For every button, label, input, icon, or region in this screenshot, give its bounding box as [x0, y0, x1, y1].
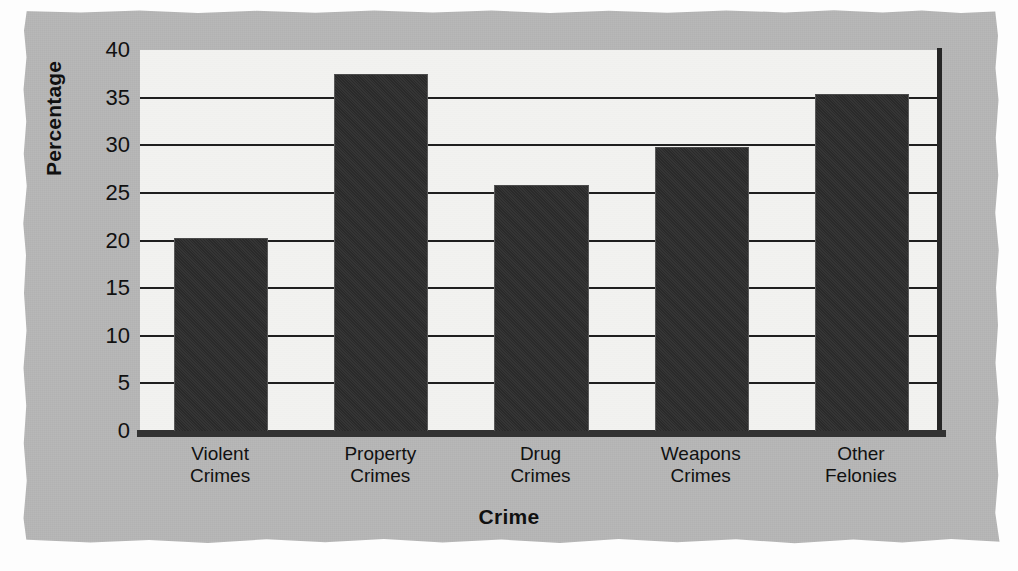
- x-tick-label: PropertyCrimes: [300, 443, 460, 488]
- bar: [174, 238, 268, 431]
- x-tick-label-line: Drug: [460, 443, 620, 465]
- y-axis-right-spine: [937, 48, 942, 433]
- x-tick-label-line: Felonies: [781, 465, 941, 487]
- x-tick-label: ViolentCrimes: [140, 443, 300, 488]
- scan-edge-right: [995, 9, 1000, 545]
- x-tick-label-line: Crimes: [621, 465, 781, 487]
- y-tick-label: 35: [106, 87, 130, 109]
- x-tick-label: OtherFelonies: [781, 443, 941, 488]
- x-tick-label-line: Violent: [140, 443, 300, 465]
- scan-edge-left: [22, 9, 27, 545]
- bar: [655, 147, 749, 431]
- x-axis-baseline: [137, 430, 946, 437]
- page-background: Percentage 4035302520151050 ViolentCrime…: [0, 0, 1018, 571]
- bar: [494, 185, 588, 431]
- y-tick-label: 25: [106, 182, 130, 204]
- x-axis-title: Crime: [0, 505, 1018, 529]
- x-tick-label-line: Weapons: [621, 443, 781, 465]
- y-tick-label: 15: [106, 277, 130, 299]
- y-axis-tick-labels: 4035302520151050: [84, 0, 130, 571]
- scan-edge-bottom: [22, 539, 1000, 545]
- y-tick-label: 30: [106, 134, 130, 156]
- x-tick-label-line: Other: [781, 443, 941, 465]
- y-tick-label: 5: [118, 372, 130, 394]
- x-axis-tick-labels: ViolentCrimesPropertyCrimesDrugCrimesWea…: [140, 443, 941, 503]
- y-tick-label: 20: [106, 230, 130, 252]
- x-tick-label-line: Property: [300, 443, 460, 465]
- scan-edge-top: [22, 9, 1000, 13]
- plot-area-wrapper: [140, 50, 941, 431]
- y-tick-label: 10: [106, 325, 130, 347]
- bar: [815, 94, 909, 431]
- bar: [334, 74, 428, 431]
- x-tick-label-line: Crimes: [460, 465, 620, 487]
- x-tick-label-line: Crimes: [140, 465, 300, 487]
- y-axis-title: Percentage: [42, 61, 66, 176]
- x-tick-label: WeaponsCrimes: [621, 443, 781, 488]
- x-tick-label-line: Crimes: [300, 465, 460, 487]
- x-tick-label: DrugCrimes: [460, 443, 620, 488]
- y-tick-label: 40: [106, 39, 130, 61]
- y-tick-label: 0: [118, 420, 130, 442]
